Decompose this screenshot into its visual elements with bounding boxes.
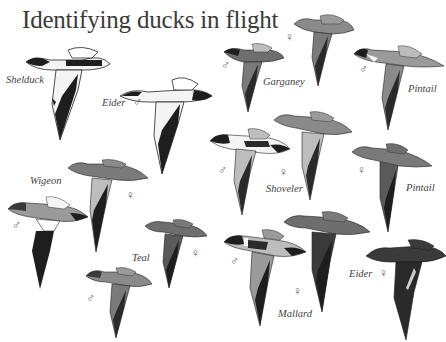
label-mallard: Mallard <box>278 308 312 319</box>
female-symbol: ♀ <box>279 166 288 178</box>
female-symbol: ♀ <box>285 31 294 43</box>
label-teal: Teal <box>132 252 150 263</box>
male-symbol: ♂ <box>133 96 142 108</box>
duck-identification-plate: Identifying ducks in flight Shelduck Ei <box>0 0 446 342</box>
label-shoveler: Shoveler <box>266 183 303 194</box>
label-eider-female-text: Eider <box>349 268 372 279</box>
label-eider-female: Eider <box>349 268 372 279</box>
duck-mallard-female <box>282 210 372 314</box>
male-symbol: ♂ <box>230 255 239 267</box>
label-pintail-bottom: Pintail <box>406 182 435 193</box>
label-eider-male: Eider <box>102 97 125 108</box>
female-symbol: ♀ <box>379 267 388 279</box>
duck-wigeon-male <box>6 195 90 291</box>
duck-garganey-female <box>292 12 356 88</box>
female-symbol: ♀ <box>293 285 302 297</box>
female-symbol: ♀ <box>126 189 135 201</box>
male-symbol: ♂ <box>218 164 227 176</box>
male-symbol: ♂ <box>12 219 21 231</box>
male-symbol: ♂ <box>221 59 230 71</box>
male-symbol: ♂ <box>86 292 95 304</box>
label-wigeon: Wigeon <box>30 175 62 186</box>
male-symbol: ♂ <box>359 63 368 75</box>
label-shelduck: Shelduck <box>6 74 44 85</box>
duck-shelduck <box>22 44 117 144</box>
plate-title: Identifying ducks in flight <box>22 6 278 34</box>
female-symbol: ♀ <box>191 247 200 259</box>
duck-eider-female <box>364 238 446 342</box>
label-pintail-top: Pintail <box>408 83 437 94</box>
female-symbol: ♀ <box>357 164 366 176</box>
label-eider-male-text: Eider <box>102 97 125 108</box>
